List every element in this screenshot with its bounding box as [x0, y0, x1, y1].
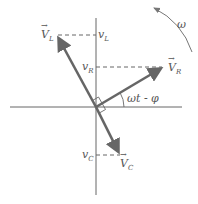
vector-arrow-icon: V [120, 158, 128, 169]
vector-arrow-icon: V [41, 29, 49, 40]
subscript: L [104, 35, 109, 43]
phasor-vc-label: VC [120, 158, 133, 172]
omega-rotation-arrow [154, 8, 192, 52]
phasor-vr-label: VR [168, 62, 181, 76]
subscript: R [176, 68, 181, 76]
projection-vl-label: vL [98, 29, 109, 43]
subscript: R [88, 67, 93, 75]
projection-vr-label: vR [82, 61, 94, 75]
phasor-vc-arrow [96, 107, 118, 151]
omega-label: ω [177, 19, 186, 30]
subscript: C [88, 155, 93, 163]
phasor-vl-label: VL [41, 29, 54, 43]
vector-arrow-icon: V [168, 62, 176, 73]
angle-arc [120, 93, 124, 108]
projection-vc-label: vC [82, 149, 94, 163]
angle-label: ωt - φ [127, 93, 159, 104]
subscript: L [49, 35, 54, 43]
subscript: C [128, 164, 133, 172]
